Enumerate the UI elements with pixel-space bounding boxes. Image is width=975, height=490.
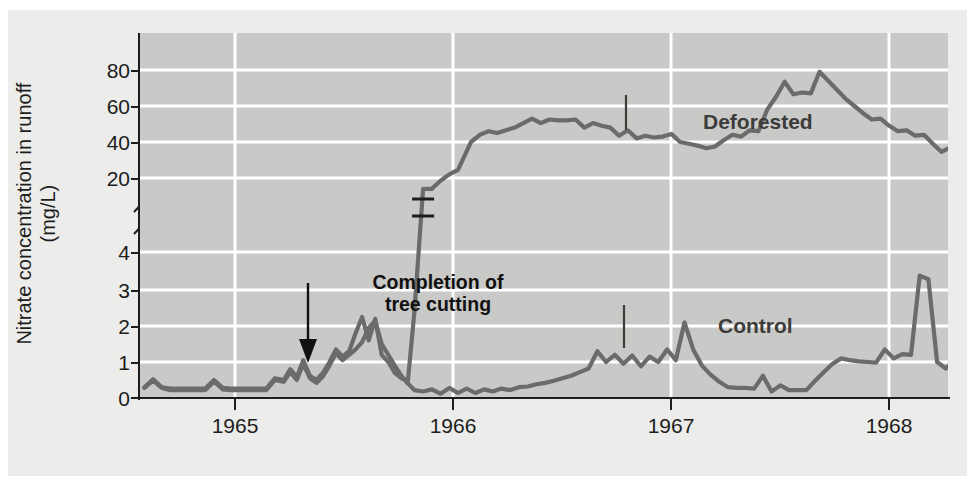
y-axis-title: Nitrate concentration in runoff (mg/L) xyxy=(13,34,60,394)
y-tick-label-2: 2 xyxy=(118,316,130,337)
y-tick-label-40: 40 xyxy=(107,132,130,153)
y-tick-label-1: 1 xyxy=(118,352,130,373)
x-tick-mark-2 xyxy=(452,399,454,410)
y-axis-line xyxy=(138,33,140,400)
annotation-completion-line2: tree cutting xyxy=(326,293,550,315)
annotation-completion-line1: Completion of xyxy=(326,271,550,293)
y-tick-label-4: 4 xyxy=(118,242,130,263)
gridlines-horizontal xyxy=(140,70,948,362)
data-series-layer xyxy=(144,72,948,394)
y-axis-title-line2: (mg/L) xyxy=(37,34,61,394)
x-tick-mark-1 xyxy=(234,399,236,410)
y-axis-tick-labels: 80 60 40 20 4 3 2 1 0 xyxy=(78,0,130,490)
figure-page: Nitrate concentration in runoff (mg/L) 8… xyxy=(0,0,975,490)
plot-area: Completion of tree cutting Deforested Co… xyxy=(140,33,948,398)
chart-canvas xyxy=(140,33,948,398)
annotation-completion-of-tree-cutting: Completion of tree cutting xyxy=(326,271,550,316)
x-axis-line xyxy=(138,397,950,399)
series-label-control: Control xyxy=(718,314,793,338)
series-line-deforested xyxy=(144,72,948,389)
y-tick-label-80: 80 xyxy=(107,60,130,81)
y-tick-label-60: 60 xyxy=(107,96,130,117)
y-tick-label-3: 3 xyxy=(118,280,130,301)
x-tick-mark-3 xyxy=(670,399,672,410)
x-tick-mark-4 xyxy=(888,399,890,410)
y-axis-title-line1: Nitrate concentration in runoff xyxy=(13,34,37,394)
x-tick-label-1965: 1965 xyxy=(155,415,315,436)
x-tick-label-1968: 1968 xyxy=(809,415,969,436)
x-tick-label-1966: 1966 xyxy=(373,415,533,436)
completion-arrow-icon xyxy=(299,283,317,363)
x-tick-label-1967: 1967 xyxy=(591,415,751,436)
series-label-deforested: Deforested xyxy=(703,110,813,134)
y-tick-label-20: 20 xyxy=(107,168,130,189)
y-tick-label-0: 0 xyxy=(118,388,130,409)
